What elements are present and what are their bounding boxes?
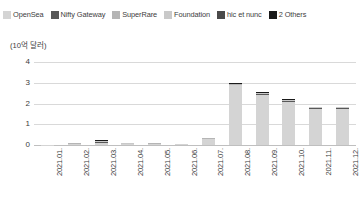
bar-stack <box>282 99 295 145</box>
bar-segment <box>175 144 188 145</box>
legend-swatch-icon <box>269 11 277 19</box>
bar-column[interactable] <box>202 50 215 145</box>
legend-item[interactable]: Nifty Gateway <box>51 11 106 19</box>
legend-item[interactable]: hic et nunc <box>217 11 262 19</box>
bar-stack <box>336 107 349 145</box>
legend-item-label: Foundation <box>174 11 210 19</box>
bar-column[interactable] <box>175 50 188 145</box>
x-axis-tick-label: 2021.05. <box>161 148 174 196</box>
legend-swatch-icon <box>217 11 225 19</box>
bar-segment <box>68 144 81 145</box>
bar-segment <box>148 144 161 145</box>
x-axis-tick-label: 2021.08. <box>241 148 254 196</box>
legend-item-label: 2 Others <box>279 11 307 19</box>
legend-item[interactable]: SuperRare <box>112 11 157 19</box>
y-axis-tick-label: 3 <box>4 79 30 87</box>
y-axis-tick-label: 2 <box>4 100 30 108</box>
nft-marketplace-volume-chart: OpenSeaNifty GatewaySuperRareFoundationh… <box>0 0 363 201</box>
x-axis-line <box>34 145 356 146</box>
bar-stack <box>309 107 322 145</box>
bar-segment <box>336 109 349 145</box>
bar-stack <box>202 138 215 145</box>
bar-stack <box>175 144 188 145</box>
x-axis-tick-label: 2021.09. <box>268 148 281 196</box>
bar-stack <box>229 83 242 145</box>
x-axis-tick-label: 2021.10. <box>295 148 308 196</box>
y-axis-tick-label: 4 <box>4 58 30 66</box>
x-axis-tick-label: 2021.01. <box>53 148 66 196</box>
bar-column[interactable] <box>336 50 349 145</box>
x-axis-tick-label: 2021.11. <box>322 148 335 196</box>
x-axis-tick-label: 2021.03. <box>107 148 120 196</box>
bar-column[interactable] <box>229 50 242 145</box>
legend-swatch-icon <box>112 11 120 19</box>
y-axis-tick-labels: 43210 <box>0 0 30 201</box>
bar-column[interactable] <box>95 50 108 145</box>
bar-segment <box>121 144 134 145</box>
legend-swatch-icon <box>164 11 172 19</box>
y-axis-tick-label: 1 <box>4 120 30 128</box>
chart-legend: OpenSeaNifty GatewaySuperRareFoundationh… <box>3 8 360 22</box>
bar-column[interactable] <box>121 50 134 145</box>
bar-stack <box>68 143 81 145</box>
x-axis-tick-label: 2021.02. <box>80 148 93 196</box>
legend-item[interactable]: 2 Others <box>269 11 307 19</box>
x-axis-tick-labels: 2021.01.2021.02.2021.03.2021.04.2021.05.… <box>34 148 356 200</box>
x-axis-tick-label: 2021.12. <box>349 148 362 196</box>
legend-item-label: Nifty Gateway <box>61 11 106 19</box>
bar-column[interactable] <box>309 50 322 145</box>
bar-column[interactable] <box>41 50 54 145</box>
bar-segment <box>95 143 108 145</box>
legend-item[interactable]: Foundation <box>164 11 210 19</box>
bar-segment <box>202 139 215 145</box>
bar-column[interactable] <box>148 50 161 145</box>
bar-stack <box>95 140 108 145</box>
bar-segment <box>282 102 295 145</box>
bar-stack <box>256 92 269 145</box>
legend-swatch-icon <box>51 11 59 19</box>
bar-stack <box>148 143 161 145</box>
bar-series-group <box>34 50 356 145</box>
bar-stack <box>121 143 134 145</box>
legend-item-label: SuperRare <box>122 11 157 19</box>
y-axis-tick-label: 0 <box>4 141 30 149</box>
legend-item-label: hic et nunc <box>227 11 262 19</box>
bar-column[interactable] <box>68 50 81 145</box>
bar-column[interactable] <box>256 50 269 145</box>
x-axis-tick-label: 2021.04. <box>134 148 147 196</box>
bar-column[interactable] <box>282 50 295 145</box>
x-axis-tick-label: 2021.06. <box>188 148 201 196</box>
x-axis-tick-label: 2021.07. <box>214 148 227 196</box>
bar-segment <box>256 95 269 145</box>
bar-segment <box>309 109 322 145</box>
bar-segment <box>229 85 242 145</box>
